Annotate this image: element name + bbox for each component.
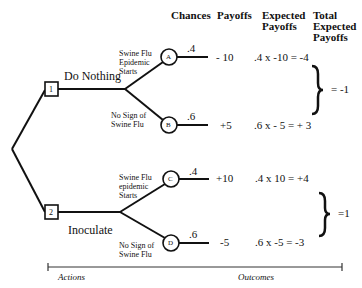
axis-label-actions: Actions bbox=[58, 272, 85, 282]
decision-tree-diagram: Chances Payoffs Expected Payoffs Total E… bbox=[0, 0, 362, 288]
chance-b: .6 bbox=[187, 110, 195, 122]
total-inoculate: =1 bbox=[338, 207, 350, 219]
chance-a: .4 bbox=[187, 42, 195, 54]
event-label: epidemic bbox=[119, 182, 148, 191]
total-do-nothing: = -1 bbox=[331, 83, 349, 95]
payoff-c: +10 bbox=[216, 172, 233, 184]
tree-lines bbox=[0, 0, 362, 288]
event-label: Starts bbox=[119, 67, 137, 76]
chance-c: .4 bbox=[189, 165, 197, 177]
event-label: Swine Flu bbox=[119, 250, 152, 259]
payoff-b: +5 bbox=[220, 119, 232, 131]
node-1-label: 1 bbox=[49, 85, 53, 94]
event-label: Epidemic bbox=[119, 58, 150, 67]
payoff-d: -5 bbox=[220, 236, 229, 248]
action-do-nothing: Do Nothing bbox=[64, 69, 121, 84]
header-chances: Chances bbox=[171, 10, 211, 21]
payoff-a: - 10 bbox=[216, 51, 233, 63]
node-a-label: A bbox=[166, 53, 171, 62]
brace-2 bbox=[319, 193, 330, 236]
node-2-label: 2 bbox=[49, 208, 53, 217]
expected-b: .6 x - 5 = + 3 bbox=[254, 119, 311, 131]
header-payoffs: Payoffs bbox=[217, 10, 252, 21]
node-d-label: D bbox=[168, 239, 173, 248]
header-total-3: Payoffs bbox=[313, 32, 348, 43]
event-label: Starts bbox=[119, 191, 137, 200]
event-label: No Sign of bbox=[119, 241, 154, 250]
event-label: Swine Flu bbox=[119, 49, 152, 58]
header-expected-2: Payoffs bbox=[262, 21, 297, 32]
expected-d: .6 x -5 = -3 bbox=[255, 236, 304, 248]
expected-c: .4 x 10 = +4 bbox=[255, 172, 309, 184]
event-label: No Sign of bbox=[111, 111, 146, 120]
node-c-label: C bbox=[168, 175, 173, 184]
expected-a: .4 x -10 = -4 bbox=[254, 51, 309, 63]
node-b-label: B bbox=[166, 121, 171, 130]
axis-label-outcomes: Outcomes bbox=[238, 272, 274, 282]
event-label: Swine Flu bbox=[111, 120, 144, 129]
action-inoculate: Inoculate bbox=[68, 223, 113, 238]
brace-1 bbox=[312, 66, 323, 114]
chance-d: .6 bbox=[189, 228, 197, 240]
event-label: Swine Flu bbox=[119, 173, 152, 182]
